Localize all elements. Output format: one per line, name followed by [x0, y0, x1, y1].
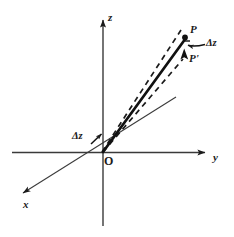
lower-dashed-ray: [103, 59, 183, 152]
delta-z-origin-leader: [91, 134, 102, 144]
upper-dashed-ray: [102, 30, 181, 152]
vector-OP: [103, 40, 185, 152]
delta-z-top-leader: [188, 45, 205, 47]
point-P-marker: [182, 35, 188, 41]
coordinate-diagram: [0, 0, 234, 237]
delta-z-origin-label: Δz: [72, 131, 83, 142]
x-axis-line: [23, 97, 176, 193]
x-axis-label: x: [23, 199, 29, 210]
y-axis-label: y: [213, 152, 218, 163]
point-P-prime-marker: [180, 49, 188, 60]
origin-label: O: [104, 155, 113, 167]
delta-z-top-label: Δz: [206, 38, 217, 49]
point-p-label: P: [190, 24, 197, 35]
z-axis-label: z: [108, 12, 112, 23]
figure-canvas: z y x O P P' Δz Δz: [0, 0, 234, 237]
point-p-prime-label: P': [189, 53, 199, 64]
